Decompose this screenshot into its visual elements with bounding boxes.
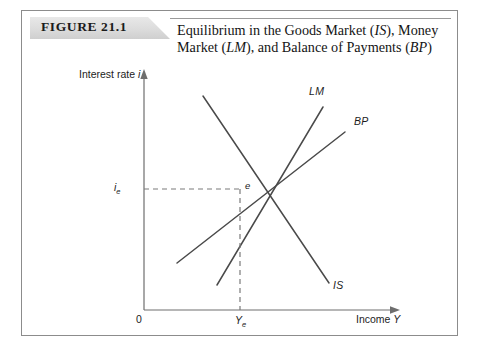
curve-label-is: IS [333,279,344,291]
y-axis-variable: i [138,68,140,80]
curve-label-bp: BP [354,115,369,127]
plot-svg [22,11,459,337]
x-axis-tick-label-ye: Ye [235,314,246,329]
y-axis-label: Interest rate i [79,68,140,80]
x-axis-label: Income Y [356,313,400,325]
tick-ye-subscript: e [242,320,246,329]
curve-is [203,96,329,283]
figure-frame: FIGURE 21.1 Equilibrium in the Goods Mar… [21,10,458,336]
x-axis-variable: Y [393,313,400,325]
y-axis-label-text: Interest rate [79,68,138,80]
equilibrium-point-label: e [245,180,250,191]
origin-label: 0 [136,313,142,325]
tick-ie-subscript: e [116,187,120,196]
curve-bp [177,132,345,263]
x-axis-label-text: Income [356,313,393,325]
curve-label-lm: LM [309,85,324,97]
curve-lm [217,107,323,285]
tick-ye-base: Y [235,314,242,326]
plot-area: Interest rate i Income Y LM BP IS e ie Y… [22,11,459,337]
y-axis-tick-label-ie: ie [114,181,121,196]
